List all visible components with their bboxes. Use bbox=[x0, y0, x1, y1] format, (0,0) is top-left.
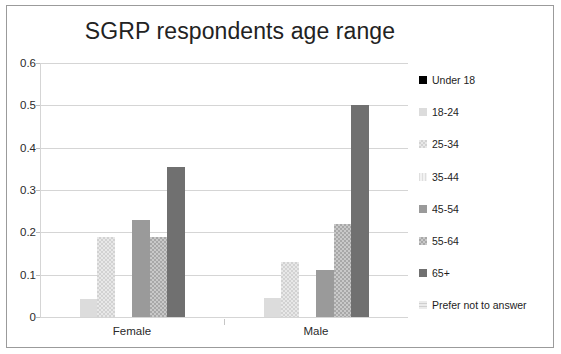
legend-swatch-icon bbox=[419, 108, 427, 116]
y-axis-tick-label: 0.2 bbox=[2, 226, 36, 238]
legend-item[interactable]: 55-64 bbox=[419, 235, 459, 247]
legend-label: 65+ bbox=[432, 267, 450, 279]
y-axis-tickmark bbox=[36, 105, 40, 106]
bar-group bbox=[62, 63, 202, 317]
chart-figure: SGRP respondents age range 0.60.50.40.30… bbox=[0, 0, 561, 354]
legend-item[interactable]: 65+ bbox=[419, 267, 450, 279]
legend-item[interactable]: 45-54 bbox=[419, 203, 459, 215]
legend-swatch-icon bbox=[419, 269, 427, 277]
chart-legend: Under 1818-2425-3435-4445-5455-6465+Pref… bbox=[419, 74, 551, 324]
legend-label: 55-64 bbox=[432, 235, 459, 247]
y-axis-tick-labels: 0.60.50.40.30.20.10 bbox=[0, 63, 36, 318]
y-axis-tick-label: 0.5 bbox=[2, 99, 36, 111]
legend-label: Under 18 bbox=[432, 74, 475, 86]
y-axis-tickmark bbox=[36, 275, 40, 276]
legend-swatch-icon bbox=[419, 205, 427, 213]
x-axis-separator bbox=[224, 319, 225, 325]
legend-label: 45-54 bbox=[432, 203, 459, 215]
legend-label: 35-44 bbox=[432, 171, 459, 183]
legend-item[interactable]: Under 18 bbox=[419, 74, 475, 86]
legend-swatch-icon bbox=[419, 140, 427, 148]
y-axis-tick-label: 0.3 bbox=[2, 184, 36, 196]
bar-18-24 bbox=[264, 298, 282, 317]
bar-55-64 bbox=[334, 224, 352, 317]
x-axis-category-label: Female bbox=[113, 325, 151, 337]
bar-25-34 bbox=[97, 237, 115, 317]
x-axis-category-label: Male bbox=[304, 325, 329, 337]
y-axis-tickmark bbox=[36, 63, 40, 64]
legend-item[interactable]: 35-44 bbox=[419, 171, 459, 183]
x-axis-category-labels: FemaleMale bbox=[40, 325, 408, 345]
bar-18-24 bbox=[80, 299, 98, 317]
legend-swatch-icon bbox=[419, 237, 427, 245]
legend-item[interactable]: 18-24 bbox=[419, 106, 459, 118]
bar-65 bbox=[351, 105, 369, 318]
bar-55-64 bbox=[150, 237, 168, 317]
y-axis-tickmark bbox=[36, 317, 40, 318]
y-axis-tick-label: 0 bbox=[2, 311, 36, 323]
chart-title: SGRP respondents age range bbox=[60, 18, 420, 45]
y-axis-tickmark bbox=[36, 232, 40, 233]
legend-item[interactable]: 25-34 bbox=[419, 138, 459, 150]
bar-45-54 bbox=[132, 220, 150, 317]
bar-25-34 bbox=[281, 262, 299, 317]
legend-item[interactable]: Prefer not to answer bbox=[419, 299, 527, 311]
legend-swatch-icon bbox=[419, 301, 427, 309]
legend-label: Prefer not to answer bbox=[432, 299, 527, 311]
legend-swatch-icon bbox=[419, 76, 427, 84]
legend-swatch-icon bbox=[419, 173, 427, 181]
y-axis-tickmark bbox=[36, 190, 40, 191]
gridline bbox=[40, 317, 408, 318]
plot-area bbox=[40, 63, 408, 318]
bar-65 bbox=[167, 167, 185, 317]
legend-label: 25-34 bbox=[432, 138, 459, 150]
bar-group bbox=[246, 63, 386, 317]
y-axis-tick-label: 0.4 bbox=[2, 142, 36, 154]
legend-label: 18-24 bbox=[432, 106, 459, 118]
y-axis-tick-label: 0.1 bbox=[2, 269, 36, 281]
bar-45-54 bbox=[316, 270, 334, 317]
y-axis-tick-label: 0.6 bbox=[2, 57, 36, 69]
y-axis-tickmark bbox=[36, 148, 40, 149]
